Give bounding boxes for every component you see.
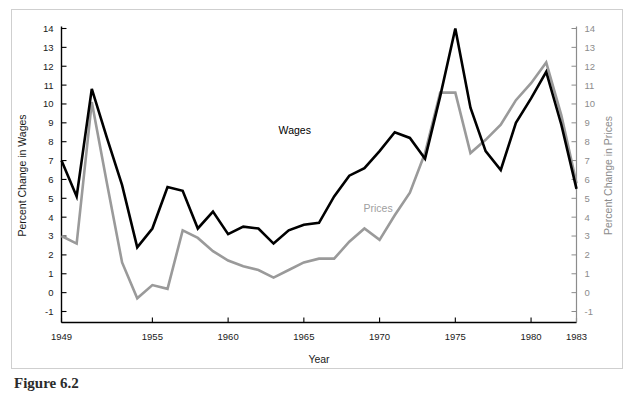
left-tick-label: 3 <box>48 230 53 241</box>
right-tick-label: 12 <box>585 61 596 72</box>
left-tick-label: -1 <box>45 306 53 317</box>
right-tick-label: 3 <box>585 230 590 241</box>
left-tick-label: 1 <box>48 268 53 279</box>
left-tick-label: 5 <box>48 193 53 204</box>
y-axis-title-left: Percent Change in Wages <box>16 114 28 236</box>
x-axis-tick-labels: 19491955196019651970197519801983 <box>51 331 587 342</box>
left-tick-label: 10 <box>43 98 54 109</box>
left-tick-label: 12 <box>43 61 54 72</box>
right-tick-label: 1 <box>585 268 590 279</box>
right-tick-label: 9 <box>585 117 590 128</box>
left-tick-label: 2 <box>48 249 53 260</box>
right-tick-label: 11 <box>585 80 595 91</box>
x-axis-ticks <box>62 318 577 323</box>
left-tick-label: 14 <box>43 23 54 34</box>
x-tick-label: 1980 <box>520 331 541 342</box>
x-tick-label: 1970 <box>369 331 390 342</box>
x-tick-label: 1965 <box>293 331 314 342</box>
x-tick-label: 1975 <box>445 331 466 342</box>
right-tick-label: -1 <box>585 306 593 317</box>
series-label-wages: Wages <box>279 124 311 136</box>
left-tick-label: 7 <box>48 155 53 166</box>
left-tick-label: 11 <box>44 80 54 91</box>
x-tick-label: 1960 <box>218 331 239 342</box>
left-tick-label: 9 <box>48 117 53 128</box>
left-tick-label: 13 <box>43 42 54 53</box>
right-tick-label: 2 <box>585 249 590 260</box>
right-tick-label: 0 <box>585 287 590 298</box>
x-tick-label: 1949 <box>51 331 72 342</box>
x-tick-label: 1955 <box>142 331 163 342</box>
y-axis-title-right: Percent Change in Prices <box>602 116 614 235</box>
left-tick-label: 6 <box>48 174 53 185</box>
right-tick-label: 14 <box>585 23 596 34</box>
left-tick-label: 8 <box>48 136 53 147</box>
x-axis-title: Year <box>308 353 330 365</box>
series-line-wages <box>62 29 577 248</box>
figure-container: 14131211109876543210-1 14131211109876543… <box>0 0 638 393</box>
series-label-prices: Prices <box>363 202 392 214</box>
left-tick-label: 4 <box>48 212 53 223</box>
chart-canvas: 14131211109876543210-1 14131211109876543… <box>0 0 638 393</box>
left-tick-label: 0 <box>48 287 53 298</box>
series-line-prices <box>62 62 577 298</box>
x-tick-label: 1983 <box>566 331 587 342</box>
left-axis-tick-labels: 14131211109876543210-1 <box>43 23 54 317</box>
right-axis-tick-labels: 14131211109876543210-1 <box>585 23 596 317</box>
right-tick-label: 4 <box>585 212 590 223</box>
right-tick-label: 10 <box>585 98 596 109</box>
right-tick-label: 8 <box>585 136 590 147</box>
right-tick-label: 5 <box>585 193 590 204</box>
right-tick-label: 13 <box>585 42 596 53</box>
right-tick-label: 6 <box>585 174 590 185</box>
figure-caption: Figure 6.2 <box>14 375 79 392</box>
right-tick-label: 7 <box>585 155 590 166</box>
